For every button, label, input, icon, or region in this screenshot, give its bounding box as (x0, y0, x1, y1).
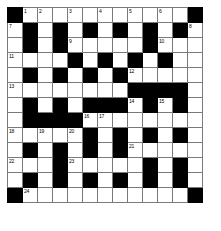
grid-cell[interactable]: 6 (158, 8, 173, 23)
grid-cell[interactable] (23, 83, 38, 98)
grid-cell[interactable] (83, 38, 98, 53)
grid-cell[interactable] (38, 98, 53, 113)
grid-cell[interactable] (188, 53, 203, 68)
grid-cell[interactable] (188, 173, 203, 188)
grid-cell[interactable] (53, 8, 68, 23)
grid-cell[interactable] (98, 188, 113, 203)
grid-cell[interactable] (8, 113, 23, 128)
grid-cell[interactable] (8, 68, 23, 83)
grid-cell[interactable]: 21 (128, 143, 143, 158)
grid-cell[interactable] (68, 68, 83, 83)
grid-cell[interactable]: 3 (68, 8, 83, 23)
grid-cell[interactable]: 7 (8, 23, 23, 38)
grid-cell[interactable] (173, 113, 188, 128)
grid-cell[interactable] (173, 53, 188, 68)
grid-cell[interactable] (68, 188, 83, 203)
grid-cell[interactable] (128, 158, 143, 173)
grid-cell[interactable]: 5 (128, 8, 143, 23)
grid-cell[interactable] (68, 98, 83, 113)
grid-cell[interactable] (23, 53, 38, 68)
grid-cell[interactable] (8, 143, 23, 158)
grid-cell[interactable] (143, 68, 158, 83)
grid-cell[interactable] (143, 143, 158, 158)
grid-cell[interactable] (188, 128, 203, 143)
grid-cell[interactable] (113, 188, 128, 203)
grid-cell[interactable] (98, 173, 113, 188)
grid-cell[interactable] (83, 83, 98, 98)
grid-cell[interactable] (98, 143, 113, 158)
grid-cell[interactable] (98, 158, 113, 173)
grid-cell[interactable]: 4 (98, 8, 113, 23)
grid-cell[interactable]: 15 (158, 98, 173, 113)
grid-cell[interactable] (38, 173, 53, 188)
grid-cell[interactable] (68, 143, 83, 158)
grid-cell[interactable]: 13 (8, 83, 23, 98)
grid-cell[interactable] (158, 188, 173, 203)
grid-cell[interactable]: 22 (8, 158, 23, 173)
grid-cell[interactable] (113, 8, 128, 23)
grid-cell[interactable]: 10 (158, 38, 173, 53)
grid-cell[interactable] (113, 158, 128, 173)
grid-cell[interactable] (38, 83, 53, 98)
grid-cell[interactable] (98, 68, 113, 83)
grid-cell[interactable]: 19 (38, 128, 53, 143)
grid-cell[interactable] (98, 128, 113, 143)
grid-cell[interactable] (113, 38, 128, 53)
grid-cell[interactable] (128, 38, 143, 53)
grid-cell[interactable] (158, 173, 173, 188)
grid-cell[interactable]: 23 (68, 158, 83, 173)
grid-cell[interactable] (173, 68, 188, 83)
grid-cell[interactable] (68, 83, 83, 98)
grid-cell[interactable] (158, 68, 173, 83)
grid-cell[interactable] (158, 158, 173, 173)
grid-cell[interactable] (173, 8, 188, 23)
grid-cell[interactable] (83, 158, 98, 173)
grid-cell[interactable] (188, 98, 203, 113)
grid-cell[interactable] (158, 143, 173, 158)
grid-cell[interactable] (173, 188, 188, 203)
grid-cell[interactable] (158, 23, 173, 38)
grid-cell[interactable] (143, 113, 158, 128)
grid-cell[interactable] (83, 53, 98, 68)
grid-cell[interactable]: 2 (38, 8, 53, 23)
grid-cell[interactable]: 17 (98, 113, 113, 128)
grid-cell[interactable]: 1 (23, 8, 38, 23)
grid-cell[interactable] (128, 128, 143, 143)
grid-cell[interactable] (173, 38, 188, 53)
grid-cell[interactable] (128, 188, 143, 203)
grid-cell[interactable] (53, 128, 68, 143)
grid-cell[interactable] (113, 113, 128, 128)
grid-cell[interactable]: 20 (68, 128, 83, 143)
grid-cell[interactable] (143, 8, 158, 23)
grid-cell[interactable] (113, 83, 128, 98)
grid-cell[interactable] (83, 8, 98, 23)
grid-cell[interactable] (188, 143, 203, 158)
grid-cell[interactable] (188, 83, 203, 98)
grid-cell[interactable] (128, 173, 143, 188)
grid-cell[interactable] (188, 68, 203, 83)
grid-cell[interactable] (83, 188, 98, 203)
grid-cell[interactable] (38, 68, 53, 83)
grid-cell[interactable]: 24 (23, 188, 38, 203)
grid-cell[interactable] (143, 53, 158, 68)
grid-cell[interactable]: 9 (68, 38, 83, 53)
grid-cell[interactable] (8, 173, 23, 188)
grid-cell[interactable] (173, 143, 188, 158)
grid-cell[interactable] (98, 83, 113, 98)
grid-cell[interactable] (188, 38, 203, 53)
grid-cell[interactable] (128, 23, 143, 38)
grid-cell[interactable]: 14 (128, 98, 143, 113)
grid-cell[interactable] (68, 173, 83, 188)
grid-cell[interactable] (188, 113, 203, 128)
grid-cell[interactable] (53, 188, 68, 203)
grid-cell[interactable] (23, 158, 38, 173)
grid-cell[interactable]: 11 (8, 53, 23, 68)
grid-cell[interactable] (38, 158, 53, 173)
grid-cell[interactable] (53, 83, 68, 98)
grid-cell[interactable] (143, 188, 158, 203)
grid-cell[interactable] (38, 188, 53, 203)
grid-cell[interactable] (188, 158, 203, 173)
grid-cell[interactable] (128, 113, 143, 128)
grid-cell[interactable]: 18 (8, 128, 23, 143)
grid-cell[interactable] (23, 128, 38, 143)
